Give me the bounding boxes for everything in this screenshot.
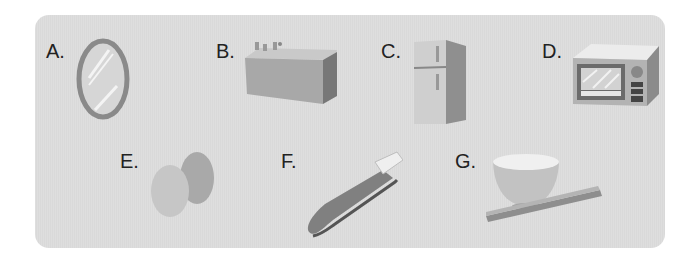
bowl-and-chopsticks-icon [486,150,606,230]
option-d-label: D. [542,40,562,63]
option-g-label: G. [455,150,476,173]
eggs-icon [150,150,216,220]
option-e-label: E. [120,150,139,173]
mirror-icon [75,38,131,120]
option-a-label: A. [46,40,65,63]
option-c-label: C. [381,40,401,63]
refrigerator-icon [412,40,468,124]
toothbrush-icon [303,150,403,240]
bathtub-icon [243,40,339,106]
option-f-label: F. [281,150,297,173]
microwave-icon [571,42,661,108]
option-b-label: B. [216,40,235,63]
